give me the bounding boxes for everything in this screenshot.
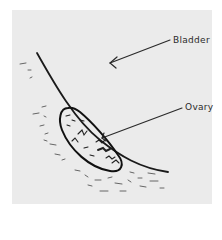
ovary-label: Ovary (185, 103, 213, 112)
tissue-speckles (20, 63, 164, 191)
ovary-texture (66, 115, 119, 163)
ovary-outline (60, 108, 122, 172)
bladder-pointer-arrow (110, 40, 170, 68)
ovary-pointer-arrow (102, 108, 182, 141)
bladder-label: Bladder (173, 36, 210, 45)
